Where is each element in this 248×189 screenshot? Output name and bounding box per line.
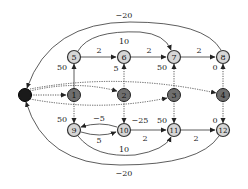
node-3: 3 xyxy=(168,89,181,102)
label-11-12: 2 xyxy=(193,134,198,143)
node-6: 6 xyxy=(118,51,131,64)
node-4-label: 4 xyxy=(220,91,225,100)
node-2: 2 xyxy=(118,89,131,102)
label-12-s: −20 xyxy=(116,169,133,178)
node-6-label: 6 xyxy=(121,53,126,62)
label-4-12: 0 xyxy=(212,116,217,125)
node-3-label: 3 xyxy=(171,91,176,100)
node-4: 4 xyxy=(217,89,230,102)
node-11: 11 xyxy=(168,124,181,137)
label-7-8: 2 xyxy=(196,46,201,55)
node-10-label: 10 xyxy=(120,127,129,135)
edge-10-9 xyxy=(81,124,117,127)
node-5-label: 5 xyxy=(71,53,76,62)
node-9: 9 xyxy=(68,124,81,137)
label-1-9: 50 xyxy=(57,115,67,124)
edge-labels: 50 50 5 −25 50 50 0 0 2 2 2 10 −20 5 −5 … xyxy=(57,11,218,178)
nodes: 1 2 3 4 5 6 7 8 xyxy=(19,51,230,137)
label-6-7: 2 xyxy=(146,46,151,55)
label-3-7: 50 xyxy=(157,63,167,72)
graph-diagram: 50 50 5 −25 50 50 0 0 2 2 2 10 −20 5 −5 … xyxy=(0,0,248,189)
label-1-5: 50 xyxy=(57,63,67,72)
node-5: 5 xyxy=(68,51,81,64)
label-5-6: 2 xyxy=(96,46,101,55)
node-1: 1 xyxy=(68,89,81,102)
label-9-10: 5 xyxy=(96,136,101,145)
label-3-11: 50 xyxy=(157,116,167,125)
label-10-11: 2 xyxy=(142,134,147,143)
label-2-6: 5 xyxy=(113,64,118,73)
node-1-label: 1 xyxy=(71,91,76,100)
label-2-10: −25 xyxy=(132,116,149,125)
label-10-9: −5 xyxy=(93,114,105,123)
label-8-s: −20 xyxy=(116,11,133,20)
node-7: 7 xyxy=(168,51,181,64)
node-10: 10 xyxy=(118,124,131,137)
node-11-label: 11 xyxy=(170,127,179,135)
graph-svg: 50 50 5 −25 50 50 0 0 2 2 2 10 −20 5 −5 … xyxy=(0,0,248,189)
node-12: 12 xyxy=(217,124,230,137)
label-9-11: 10 xyxy=(119,145,129,154)
edge-s-3 xyxy=(30,98,167,105)
node-s xyxy=(19,89,32,102)
node-12-label: 12 xyxy=(219,127,228,135)
label-4-8: 0 xyxy=(212,63,217,72)
node-7-label: 7 xyxy=(171,53,176,62)
node-9-label: 9 xyxy=(71,126,76,135)
label-5-7: 10 xyxy=(119,37,129,46)
node-2-label: 2 xyxy=(121,91,126,100)
node-8: 8 xyxy=(217,51,230,64)
node-8-label: 8 xyxy=(220,53,225,62)
